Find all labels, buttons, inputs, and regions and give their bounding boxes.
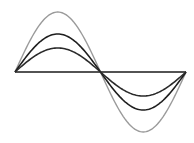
sine-wave-diagram [0, 0, 194, 143]
